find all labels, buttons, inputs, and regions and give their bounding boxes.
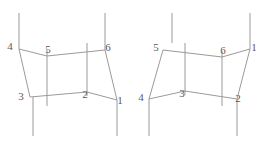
right-diagram-node-label-6: 6 (220, 44, 226, 56)
left-diagram-node-label-1: 1 (117, 94, 123, 106)
right-diagram-node-label-2: 2 (235, 92, 241, 104)
right-diagram-node-label-3: 3 (179, 87, 185, 99)
right-diagram-edge-5-4 (149, 50, 163, 99)
left-diagram-edge-5-6 (47, 50, 105, 56)
right-diagram-edge-5-6 (163, 50, 222, 57)
right-diagram-node-label-1: 1 (251, 41, 257, 53)
left-diagram-edge-6-1 (105, 50, 117, 100)
figure-root: 123456 123456 (0, 0, 266, 147)
right-lattice-diagram: 123456 (138, 13, 257, 136)
left-diagram-edge-2-1 (87, 92, 117, 100)
left-diagram-node-label-5: 5 (45, 43, 51, 55)
left-diagram-node-label-6: 6 (105, 41, 111, 53)
right-diagram-edge-6-1 (222, 49, 250, 57)
left-diagram-node-label-4: 4 (7, 40, 13, 52)
left-diagram-node-label-2: 2 (82, 88, 88, 100)
left-lattice-diagram: 123456 (7, 13, 123, 136)
lattice-diagram-svg: 123456 123456 (0, 0, 266, 147)
right-diagram-node-label-5: 5 (153, 41, 159, 53)
left-diagram-node-label-3: 3 (18, 90, 24, 102)
right-diagram-node-label-4: 4 (138, 91, 144, 103)
left-diagram-edge-3-2 (30, 92, 87, 97)
right-diagram-edge-3-2 (185, 91, 237, 99)
left-diagram-edge-4-5 (19, 49, 47, 56)
